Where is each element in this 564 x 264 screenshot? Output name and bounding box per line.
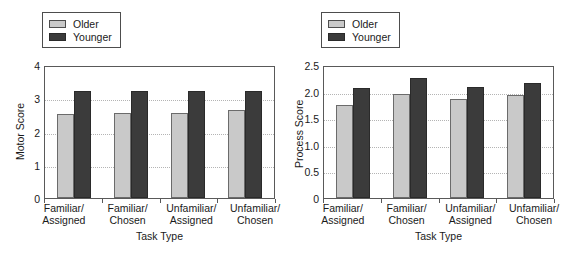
x-tick-label-line: Familiar/ <box>311 202 375 214</box>
legend: Older Younger <box>42 12 121 48</box>
bar-group <box>45 67 102 198</box>
legend-item-older: Older <box>49 17 112 30</box>
x-tick-label-line: Unfamiliar/ <box>223 202 287 214</box>
legend-label-younger: Younger <box>352 31 391 43</box>
y-tick-label: 2 <box>34 128 40 138</box>
bar-series-container <box>45 67 274 198</box>
legend-label-older: Older <box>352 18 378 30</box>
x-tick-label-line: Chosen <box>96 214 160 226</box>
bar-older[interactable] <box>336 105 353 198</box>
x-tick-label: Unfamiliar/Chosen <box>502 202 564 226</box>
legend-swatch-older <box>328 20 345 28</box>
x-tick-label-line: Chosen <box>502 214 564 226</box>
legend-label-older: Older <box>73 18 99 30</box>
y-tick-label: 0.5 <box>304 167 319 177</box>
bar-older[interactable] <box>450 99 467 198</box>
x-tick-label: Familiar/Assigned <box>311 202 375 226</box>
legend-label-younger: Younger <box>73 31 112 43</box>
x-axis-label: Task Type <box>323 230 554 242</box>
bar-older[interactable] <box>171 113 188 198</box>
bar-older[interactable] <box>393 94 410 198</box>
x-tick-label-line: Chosen <box>223 214 287 226</box>
y-tick-label: 1 <box>34 161 40 171</box>
y-tick-label: 3 <box>34 94 40 104</box>
y-tick-label: 2.0 <box>304 88 319 98</box>
bar-older[interactable] <box>507 95 524 198</box>
y-axis-ticks: 00.51.01.52.02.5 <box>289 66 319 199</box>
x-tick-label: Familiar/Assigned <box>32 202 96 226</box>
bar-group <box>496 67 553 198</box>
bar-younger[interactable] <box>524 83 541 198</box>
bar-group <box>102 67 159 198</box>
x-tick-label-line: Assigned <box>439 214 503 226</box>
x-tick-label: Familiar/Chosen <box>96 202 160 226</box>
plot-area <box>323 66 554 199</box>
chart-panel-process-score: Older Younger Process Score 00.51.01.52.… <box>279 0 558 264</box>
bar-group <box>217 67 274 198</box>
bar-group <box>324 67 381 198</box>
x-tick-label-line: Familiar/ <box>375 202 439 214</box>
x-tick-label-line: Unfamiliar/ <box>160 202 224 214</box>
bar-younger[interactable] <box>353 88 370 198</box>
bar-younger[interactable] <box>410 78 427 198</box>
bar-younger[interactable] <box>131 91 148 198</box>
legend-swatch-younger <box>49 33 66 41</box>
bar-older[interactable] <box>228 110 245 198</box>
legend-swatch-younger <box>328 33 345 41</box>
x-tick-label-line: Assigned <box>160 214 224 226</box>
bar-older[interactable] <box>57 114 74 198</box>
legend-swatch-older <box>49 20 66 28</box>
legend-item-younger: Younger <box>328 30 391 43</box>
bar-group <box>439 67 496 198</box>
y-tick-label: 1.0 <box>304 141 319 151</box>
y-axis-ticks: 01234 <box>16 66 40 199</box>
bar-younger[interactable] <box>188 91 205 198</box>
x-tick-label: Unfamiliar/Assigned <box>439 202 503 226</box>
y-tick-label: 2.5 <box>304 61 319 71</box>
legend: Older Younger <box>321 12 400 48</box>
bar-series-container <box>324 67 553 198</box>
x-tick-label-line: Assigned <box>32 214 96 226</box>
bar-younger[interactable] <box>245 91 262 198</box>
x-axis-tick-labels: Familiar/AssignedFamiliar/ChosenUnfamili… <box>311 202 564 226</box>
x-tick-label: Familiar/Chosen <box>375 202 439 226</box>
y-tick-label: 1.5 <box>304 114 319 124</box>
bar-older[interactable] <box>114 113 131 198</box>
chart-panel-motor-score: Older Younger Motor Score 01234 Familiar… <box>0 0 279 264</box>
legend-item-older: Older <box>328 17 391 30</box>
x-axis-label: Task Type <box>44 230 275 242</box>
bar-group <box>160 67 217 198</box>
x-axis-tick-labels: Familiar/AssignedFamiliar/ChosenUnfamili… <box>32 202 287 226</box>
x-tick-label: Unfamiliar/Chosen <box>223 202 287 226</box>
x-tick-label: Unfamiliar/Assigned <box>160 202 224 226</box>
x-tick-label-line: Unfamiliar/ <box>439 202 503 214</box>
x-tick-label-line: Familiar/ <box>96 202 160 214</box>
y-tick-label: 4 <box>34 61 40 71</box>
x-tick-label-line: Unfamiliar/ <box>502 202 564 214</box>
x-tick-label-line: Assigned <box>311 214 375 226</box>
plot-area <box>44 66 275 199</box>
bar-group <box>381 67 438 198</box>
x-tick-label-line: Familiar/ <box>32 202 96 214</box>
x-tick-label-line: Chosen <box>375 214 439 226</box>
legend-item-younger: Younger <box>49 30 112 43</box>
bar-younger[interactable] <box>467 87 484 198</box>
bar-younger[interactable] <box>74 91 91 198</box>
